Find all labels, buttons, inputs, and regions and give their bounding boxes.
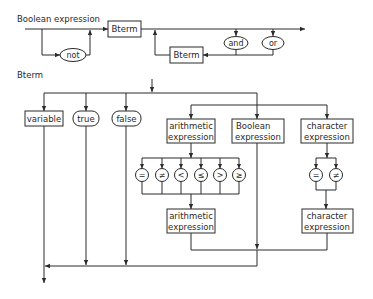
arith-operator-label: ≠ [159, 171, 166, 180]
arith-operator-label: ≤ [198, 171, 205, 180]
char2-line1: character [307, 211, 348, 221]
char-line2: expression [304, 132, 350, 142]
bterm-loop-label: Bterm [173, 50, 199, 60]
char2-line2: expression [304, 222, 350, 232]
char-line1: character [307, 121, 348, 131]
relation-merge-line [191, 233, 327, 250]
arith-operator-label: = [139, 171, 146, 180]
arith2-line2: expression [168, 222, 214, 232]
bool-line2: expression [235, 132, 281, 142]
arith2-line1: arithmetic [169, 211, 213, 221]
loop-up-line [155, 30, 170, 55]
not-label: not [66, 51, 79, 60]
or-label: or [269, 39, 278, 48]
arith-operator-group: =≠<≤>≥ [136, 158, 246, 194]
bterm-diagram: Bterm variable true false arithmetic exp… [17, 70, 353, 283]
arith-operator-label: > [217, 171, 224, 180]
true-label: true [77, 114, 94, 124]
char-operator-group: =≠ [310, 158, 343, 190]
char-operator-label: ≠ [333, 171, 340, 180]
not-branch-out [86, 30, 90, 55]
not-branch-in [42, 29, 60, 55]
arith-operator-label: < [178, 171, 185, 180]
variable-label: variable [27, 114, 61, 124]
false-label: false [116, 114, 136, 124]
bool-line1: Boolean [236, 121, 270, 131]
arith-operator-label: ≥ [236, 171, 243, 180]
char-operator-label: = [313, 171, 320, 180]
loop-return-line [203, 50, 273, 56]
bterm-title: Bterm [17, 70, 43, 80]
bterm-main-label: Bterm [111, 24, 137, 34]
arith-line1: arithmetic [169, 121, 213, 131]
boolean-expression-diagram: Boolean expression not Bterm and or Bter… [17, 14, 305, 63]
arith-line2: expression [168, 132, 214, 142]
syntax-diagram-canvas: Boolean expression not Bterm and or Bter… [0, 0, 373, 299]
boolean-expression-title: Boolean expression [17, 14, 100, 24]
and-label: and [228, 39, 243, 48]
